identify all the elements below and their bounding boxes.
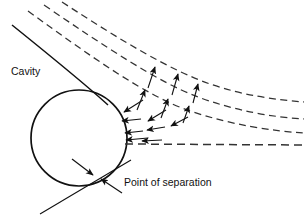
flow-separation-diagram: Cavity Point of separation [0, 0, 306, 218]
cylinder-body [31, 90, 127, 186]
figure-canvas: Cavity Point of separation [0, 0, 306, 218]
velocity-arrow-up-1 [148, 67, 155, 88]
velocity-arrow-left-3 [125, 131, 143, 133]
streamline-separating-dashed [125, 144, 304, 145]
velocity-arrow-diag-1 [124, 100, 143, 112]
separation-pointer-lower [101, 179, 122, 193]
velocity-arrow-left-2 [147, 127, 165, 130]
velocity-arrow-up-3 [193, 84, 198, 103]
velocity-arrow-left-4 [126, 138, 148, 140]
velocity-arrow-left-1 [122, 119, 141, 121]
velocity-arrow-up-2 [172, 74, 178, 95]
streamline-outer-1 [62, 2, 304, 102]
point-of-separation-label: Point of separation [124, 176, 212, 188]
velocity-arrow-left-5 [142, 140, 162, 141]
velocity-arrow-up-4 [137, 90, 145, 110]
velocity-arrow-up-5 [161, 99, 168, 118]
cavity-label: Cavity [11, 65, 41, 77]
velocity-arrow-diag-3 [171, 117, 188, 126]
velocity-arrow-diag-2 [148, 110, 166, 121]
